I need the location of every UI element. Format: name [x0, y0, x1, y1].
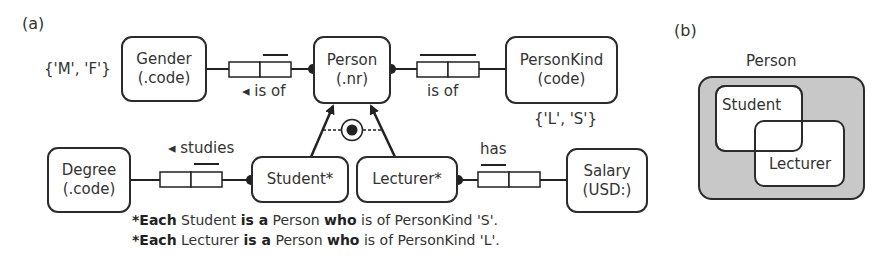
- panel-b-label: (b): [674, 21, 697, 40]
- reading-student-degree: ◂ studies: [168, 139, 234, 157]
- entity-name: Degree: [62, 161, 117, 180]
- subtype-definition-student: *Each Student is a Person who is of Pers…: [132, 210, 498, 230]
- entity-name: Salary: [583, 162, 630, 181]
- personkind-value-constraint: {'L', 'S'}: [534, 110, 597, 128]
- entity-ref: (.code): [138, 69, 191, 88]
- fact-type-person-gender[interactable]: [206, 55, 318, 77]
- venn-person-label: Person: [746, 52, 796, 70]
- fact-type-person-kind[interactable]: [386, 55, 505, 77]
- panel-a-label: (a): [22, 14, 44, 33]
- reading-person-kind: is of: [427, 82, 458, 100]
- reading-person-gender: ◂ is of: [242, 82, 286, 100]
- xor-constraint-icon[interactable]: [323, 120, 383, 141]
- gender-value-constraint: {'M', 'F'}: [44, 60, 111, 78]
- fact-type-student-degree[interactable]: [131, 164, 256, 187]
- entity-ref: (USD:): [583, 181, 632, 200]
- entity-ref: (.code): [63, 180, 116, 199]
- entity-person[interactable]: Person (.nr): [313, 36, 391, 104]
- reading-lecturer-salary: has: [480, 140, 507, 158]
- entity-name: PersonKind: [520, 51, 603, 70]
- entity-salary[interactable]: Salary (USD:): [566, 148, 648, 213]
- entity-gender[interactable]: Gender (.code): [121, 36, 207, 102]
- fact-type-lecturer-salary[interactable]: [453, 165, 566, 187]
- subtype-arrow-student: [311, 106, 333, 157]
- entity-name: Student*: [267, 170, 334, 189]
- entity-name: Person: [327, 51, 377, 70]
- entity-name: Gender: [136, 50, 191, 69]
- entity-ref: (code): [538, 70, 586, 89]
- subtype-arrow-lecturer: [371, 106, 395, 157]
- entity-name: Lecturer*: [372, 170, 442, 189]
- entity-personkind[interactable]: PersonKind (code): [505, 36, 618, 104]
- venn-student-label: Student: [722, 96, 781, 114]
- subtype-definition-lecturer: *Each Lecturer is a Person who is of Per…: [132, 230, 500, 250]
- entity-ref: (.nr): [336, 70, 368, 89]
- entity-lecturer[interactable]: Lecturer*: [356, 156, 458, 203]
- entity-degree[interactable]: Degree (.code): [47, 147, 131, 213]
- entity-student[interactable]: Student*: [251, 156, 349, 203]
- venn-lecturer-label: Lecturer: [769, 155, 831, 173]
